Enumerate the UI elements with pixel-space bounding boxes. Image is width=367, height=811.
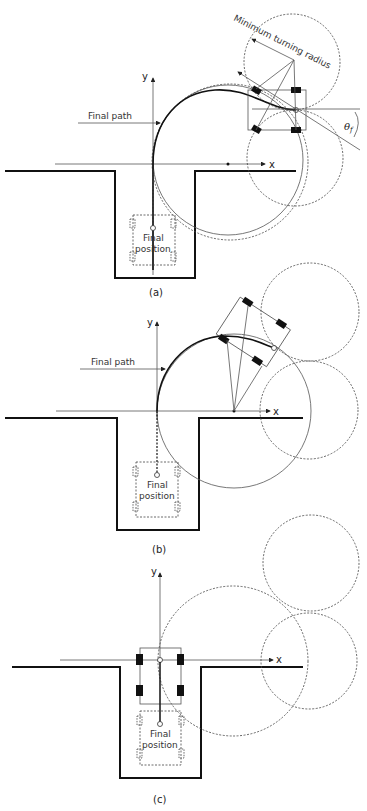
- vehicle-wheel: [177, 654, 184, 665]
- angle-arc: [354, 112, 358, 137]
- final-position-point: [155, 473, 160, 478]
- vehicle-wheel: [242, 297, 254, 307]
- vehicle-wheel: [275, 319, 287, 329]
- heading-line: [238, 72, 360, 150]
- vehicle-reference-point: [272, 346, 277, 351]
- parking-slot-wall: [12, 667, 303, 778]
- vehicle-wheel: [291, 87, 301, 93]
- radius-ray: [256, 60, 294, 130]
- ghost-wheel: [133, 467, 138, 476]
- radius-ray: [234, 366, 262, 411]
- panel-c: x y Final position (c): [12, 515, 359, 805]
- final-position-point: [158, 722, 163, 727]
- final-path-curve: [157, 336, 274, 411]
- final-position-label-1: Final: [147, 480, 168, 490]
- y-axis-label: y: [151, 566, 157, 577]
- caption-c: (c): [153, 794, 166, 805]
- final-path-label: Final path: [91, 357, 135, 367]
- parking-slot-wall: [5, 418, 303, 530]
- vehicle-wheel: [251, 355, 263, 365]
- min-radius-circle-top: [263, 515, 359, 611]
- final-position-label-2: position: [135, 244, 171, 254]
- vehicle-wheel: [251, 85, 262, 95]
- final-position-label-1: Final: [143, 233, 164, 243]
- ghost-wheel: [179, 749, 184, 758]
- angle-label: θf: [344, 121, 354, 134]
- x-axis-label: x: [269, 159, 275, 170]
- parking-slot-wall: [5, 171, 296, 278]
- parking-diagram: x y Final path Minimum turning ra: [0, 0, 367, 811]
- radius-ray: [294, 60, 296, 130]
- vehicle-wheel: [136, 685, 143, 696]
- final-position-point: [151, 226, 156, 231]
- caption-a: (a): [149, 287, 163, 298]
- ghost-wheel: [171, 252, 176, 261]
- ghost-wheel: [175, 467, 180, 476]
- radius-ray: [256, 60, 294, 89]
- radius-ray: [227, 340, 234, 411]
- final-path-label: Final path: [88, 111, 132, 121]
- y-axis-label: y: [142, 71, 148, 82]
- caption-b: (b): [152, 544, 166, 555]
- radius-ray: [234, 306, 248, 411]
- panel-a: x y Final path Minimum turning ra: [5, 13, 360, 298]
- vehicle-reference-point: [158, 658, 163, 663]
- vehicle-wheel: [136, 654, 143, 665]
- min-radius-circle-bottom: [247, 110, 343, 206]
- vehicle: [215, 295, 293, 370]
- ghost-wheel: [137, 716, 142, 725]
- final-position-label-2: position: [142, 740, 178, 750]
- final-position-label-1: Final: [150, 729, 171, 739]
- x-axis-label: x: [276, 654, 282, 665]
- vehicle-body: [216, 297, 290, 367]
- ghost-wheel: [137, 749, 142, 758]
- turning-center-dot: [227, 163, 230, 166]
- ghost-wheel: [130, 219, 135, 228]
- x-axis-label: x: [273, 406, 279, 417]
- final-path-curve: [153, 90, 296, 270]
- final-position-label-2: position: [139, 491, 175, 501]
- panel-b: x y Final path Final position (b): [5, 263, 359, 555]
- vehicle-wheel: [177, 685, 184, 696]
- ghost-wheel: [133, 502, 138, 511]
- y-axis-label: y: [147, 317, 153, 328]
- ghost-wheel: [175, 502, 180, 511]
